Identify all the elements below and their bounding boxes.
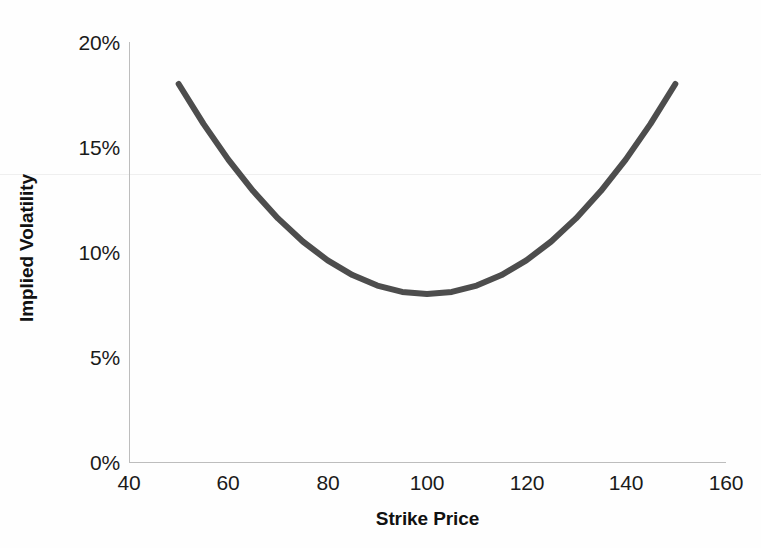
x-tick-label: 100 bbox=[377, 472, 477, 493]
chart-container: 20% 15% 10% 5% 0% 40 60 80 100 120 140 1… bbox=[0, 0, 761, 548]
y-axis-title: Implied Volatility bbox=[16, 118, 38, 378]
x-tick-label: 80 bbox=[278, 472, 378, 493]
x-tick-label: 120 bbox=[477, 472, 577, 493]
x-tick-label: 160 bbox=[676, 472, 761, 493]
plot-area bbox=[129, 42, 725, 462]
y-tick-label: 20% bbox=[20, 32, 120, 53]
x-tick-label: 60 bbox=[178, 472, 278, 493]
x-tick-label: 140 bbox=[576, 472, 676, 493]
y-tick-label: 0% bbox=[20, 452, 120, 473]
volatility-smile-curve bbox=[129, 42, 725, 462]
x-tick-label: 40 bbox=[79, 472, 179, 493]
curve-path bbox=[179, 84, 676, 294]
x-axis-title: Strike Price bbox=[129, 508, 726, 530]
x-axis-line bbox=[129, 462, 726, 463]
